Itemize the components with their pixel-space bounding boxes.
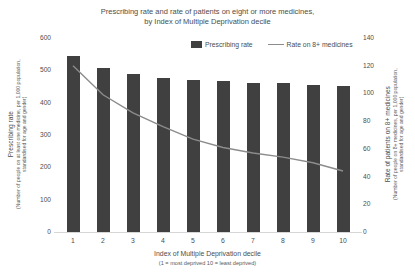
bar-prescribing-rate-decile-1 — [67, 56, 80, 232]
x-axis-category-label: 5 — [183, 237, 203, 244]
bar-prescribing-rate-decile-10 — [337, 86, 350, 232]
left-axis-tick-label: 300 — [30, 131, 51, 139]
left-axis-tick-label: 100 — [30, 196, 51, 204]
chart-title: Prescribing rate and rate of patients on… — [0, 7, 415, 26]
x-axis-category-label: 10 — [333, 237, 353, 244]
legend-item-rate-8plus: Rate on 8+ medicines — [268, 41, 353, 48]
x-axis-category-label: 6 — [213, 237, 233, 244]
chart-figure: Prescribing rate and rate of patients on… — [0, 0, 415, 278]
left-axis-tick-label: 600 — [30, 34, 51, 42]
bar-prescribing-rate-decile-9 — [307, 85, 320, 232]
line-series-path — [73, 66, 343, 171]
right-axis-tick-label: 0 — [363, 228, 383, 236]
right-axis-tick-label: 120 — [363, 62, 383, 70]
left-axis-title-main: Prescribing rate — [7, 29, 15, 239]
right-axis-tick-label: 40 — [363, 173, 383, 181]
x-axis-category-label: 4 — [153, 237, 173, 244]
bar-prescribing-rate-decile-6 — [217, 81, 230, 232]
right-axis-tick-label: 80 — [363, 117, 383, 125]
legend-item-prescribing-rate: Prescribing rate — [191, 41, 253, 48]
x-axis-category-label: 9 — [303, 237, 323, 244]
bar-prescribing-rate-decile-4 — [157, 78, 170, 232]
chart-title-line1: Prescribing rate and rate of patients on… — [0, 7, 415, 17]
bar-prescribing-rate-decile-8 — [277, 83, 290, 232]
line-series-swatch-icon — [268, 44, 284, 45]
x-axis-category-label: 7 — [243, 237, 263, 244]
x-axis-title: Index of Multiple Deprivation decile — [0, 250, 415, 257]
x-axis-category-label: 8 — [273, 237, 293, 244]
chart-legend: Prescribing rate Rate on 8+ medicines — [191, 41, 353, 48]
left-axis-tick-label: 500 — [30, 66, 51, 74]
legend-label-prescribing-rate: Prescribing rate — [205, 41, 253, 48]
legend-label-rate-8plus: Rate on 8+ medicines — [287, 41, 353, 48]
left-axis-title-sub2: standardised for age and gender) — [21, 29, 27, 239]
x-axis-category-label: 3 — [123, 237, 143, 244]
right-axis-tick-label: 60 — [363, 145, 383, 153]
x-axis-line — [54, 232, 362, 233]
left-axis-tick-label: 400 — [30, 99, 51, 107]
bar-prescribing-rate-decile-5 — [187, 80, 200, 232]
right-axis-tick-label: 20 — [363, 200, 383, 208]
left-axis-tick-label: 200 — [30, 163, 51, 171]
right-axis-tick-label: 140 — [363, 34, 383, 42]
bar-prescribing-rate-decile-7 — [247, 83, 260, 232]
left-axis-title: Prescribing rate (Number of people on at… — [7, 29, 27, 239]
chart-title-line2: by Index of Multiple Deprivation decile — [0, 17, 415, 27]
left-axis-tick-label: 0 — [30, 228, 51, 236]
right-axis-tick-label: 100 — [363, 89, 383, 97]
bar-prescribing-rate-decile-2 — [97, 68, 110, 232]
right-axis-title-sub2: standardised for age and gender) — [398, 29, 404, 239]
bar-series-swatch-icon — [191, 41, 202, 48]
bar-prescribing-rate-decile-3 — [127, 74, 140, 232]
x-axis-category-label: 1 — [63, 237, 83, 244]
x-axis-subtitle: (1 = most deprived 10 = least deprived) — [0, 260, 415, 266]
x-axis-category-label: 2 — [93, 237, 113, 244]
right-axis-title: Rate of patients on 8+ medicines (Number… — [384, 29, 404, 239]
right-axis-title-main: Rate of patients on 8+ medicines — [384, 29, 392, 239]
